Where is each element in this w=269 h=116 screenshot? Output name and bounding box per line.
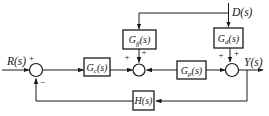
sum1-plus-sign: + [29, 53, 34, 63]
controller-label-suffix: (s) [97, 62, 108, 74]
sum1-minus-sign: − [40, 77, 45, 87]
sum3-plus-sign-top: + [234, 48, 239, 58]
block-diagram: Gc(s) Gff(s) Gp(s) Gd(s) H(s) R(s) D(s) … [0, 0, 269, 116]
summing-junction-1 [30, 64, 43, 77]
disturbance-tf-label-main: G [218, 33, 225, 44]
disturbance-branch-arrow [139, 13, 229, 29]
reference-signal-label: R(s) [6, 55, 26, 68]
summing-junction-3 [226, 64, 239, 77]
block-diagram-canvas: Gc(s) Gff(s) Gp(s) Gd(s) H(s) R(s) D(s) … [0, 0, 269, 116]
feedback-to-sum1-arrow [36, 79, 133, 102]
output-signal-label: Y(s) [244, 56, 263, 69]
sum2-plus-sign-top: + [141, 47, 146, 57]
sum3-plus-sign-left: + [218, 50, 223, 60]
controller-label-main: G [87, 62, 94, 73]
disturbance-signal-label: D(s) [231, 6, 253, 19]
disturbance-tf-label-suffix: (s) [229, 33, 240, 45]
sum2-plus-sign-left: + [124, 52, 129, 62]
feedback-label: H(s) [134, 95, 153, 107]
feedforward-label-suffix: (s) [140, 34, 151, 46]
plant-label-suffix: (s) [192, 65, 203, 77]
plant-label-main: G [181, 65, 188, 76]
summing-junction-2 [133, 64, 145, 76]
feedforward-label-main: G [129, 34, 136, 45]
